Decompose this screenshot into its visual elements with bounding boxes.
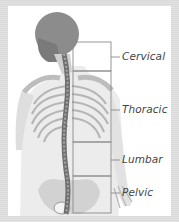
label-cervical: Cervical [122, 50, 165, 62]
label-pelvic: Pelvic [122, 186, 153, 198]
label-thoracic: Thoracic [122, 103, 168, 115]
diagram-frame: Cervical Thoracic Lumbar Pelvic [0, 0, 179, 222]
label-lumbar: Lumbar [122, 153, 163, 165]
